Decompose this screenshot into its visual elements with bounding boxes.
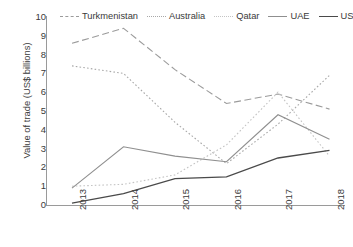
plot-area: 012345678910 Value of trade (US$ billion… (0, 0, 353, 247)
series-lines (0, 0, 353, 247)
line-chart: TurkmenistanAustraliaQatarUAEUS 01234567… (0, 0, 353, 247)
series-line-qatar (72, 92, 330, 186)
series-line-australia (72, 66, 330, 164)
series-line-turkmenistan (72, 28, 330, 109)
series-line-us (72, 150, 330, 203)
series-line-uae (72, 115, 330, 188)
